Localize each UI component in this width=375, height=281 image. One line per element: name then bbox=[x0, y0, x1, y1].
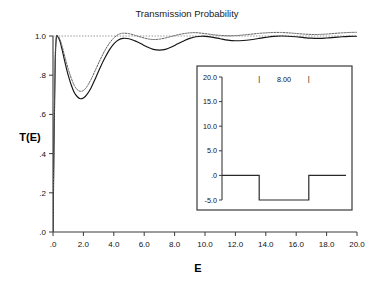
y-axis-label: T(E) bbox=[19, 131, 41, 143]
x-tick-label: 2.0 bbox=[78, 240, 90, 249]
inset-frame bbox=[197, 66, 352, 210]
y-tick-label: .6 bbox=[39, 110, 46, 119]
inset-left-wall-marker: | bbox=[258, 74, 260, 83]
inset-y-tick-label: .0 bbox=[211, 171, 217, 180]
x-tick-label: 12.0 bbox=[228, 240, 244, 249]
inset-right-wall-marker: | bbox=[308, 74, 310, 83]
x-tick-label: 20.0 bbox=[349, 240, 365, 249]
inset-y-tick-label: 10.0 bbox=[203, 122, 217, 131]
y-tick-label: 1.0 bbox=[35, 32, 47, 41]
inset-y-tick-label: 15.0 bbox=[203, 97, 217, 106]
x-tick-label: 8.0 bbox=[169, 240, 181, 249]
x-tick-label: 6.0 bbox=[139, 240, 151, 249]
inset-width-annotation: 8.00 bbox=[277, 75, 291, 84]
inset-y-tick-label: 20.0 bbox=[203, 73, 217, 82]
x-tick-label: .0 bbox=[50, 240, 57, 249]
transmission-probability-figure: Transmission Probability .0.2.4.6.81.0.0… bbox=[0, 0, 375, 281]
y-tick-label: .2 bbox=[39, 189, 46, 198]
chart-title: Transmission Probability bbox=[135, 8, 238, 19]
inset-y-tick-label: 5.0 bbox=[207, 146, 217, 155]
potential-well-inset: -5.0.05.010.015.020.0||8.00 bbox=[197, 66, 352, 210]
x-tick-label: 18.0 bbox=[319, 240, 335, 249]
y-tick-label: .4 bbox=[39, 150, 46, 159]
y-tick-label: .8 bbox=[39, 71, 46, 80]
x-tick-label: 16.0 bbox=[288, 240, 304, 249]
inset-y-tick-label: -5.0 bbox=[205, 196, 217, 205]
x-tick-label: 10.0 bbox=[197, 240, 213, 249]
x-axis-label: E bbox=[194, 262, 201, 274]
y-tick-label: .0 bbox=[39, 228, 46, 237]
x-tick-label: 4.0 bbox=[108, 240, 120, 249]
plot-canvas: Transmission Probability .0.2.4.6.81.0.0… bbox=[0, 0, 375, 281]
x-tick-label: 14.0 bbox=[258, 240, 274, 249]
